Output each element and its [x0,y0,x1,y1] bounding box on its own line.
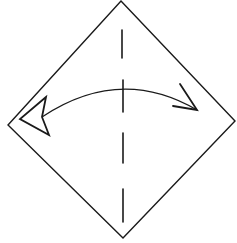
arrow-head-right-icon [173,84,197,110]
valley-fold-dashed-line [122,30,123,222]
fold-unfold-arrow-curve [42,89,197,117]
origami-diagram [0,0,237,243]
